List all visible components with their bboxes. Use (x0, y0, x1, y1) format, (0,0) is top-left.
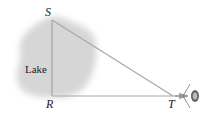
point-label-s: S (45, 6, 51, 18)
lake-shape (17, 17, 97, 98)
lake-survey-diagram (0, 0, 211, 123)
point-label-r: R (46, 98, 53, 110)
point-label-t: T (168, 98, 175, 110)
transit-icon (175, 84, 199, 108)
lake-label: Lake (25, 64, 47, 75)
